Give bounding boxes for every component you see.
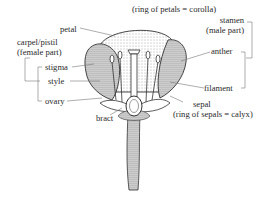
bract-label: bract (96, 114, 113, 123)
filament-label: filament (204, 84, 233, 93)
petal-label: petal (60, 25, 77, 34)
corolla-label: (ring of petals = corolla) (132, 5, 216, 14)
carpel-sublabel: (female part) (17, 48, 62, 57)
ovary-label: ovary (45, 97, 65, 106)
carpel-label: carpel/pistil (17, 38, 58, 47)
petal-left (85, 44, 120, 100)
style (131, 54, 137, 98)
stem (127, 112, 140, 190)
style-label: style (48, 77, 64, 86)
sepal-label: sepal (193, 100, 211, 109)
stigma-label: stigma (45, 63, 68, 72)
anther-label: anther (211, 47, 232, 56)
calyx-label: (ring of sepals = calyx) (173, 110, 253, 119)
stamen-sublabel: (male part) (184, 26, 244, 35)
stigma (128, 50, 140, 54)
stamen-label: stamen (198, 16, 244, 25)
